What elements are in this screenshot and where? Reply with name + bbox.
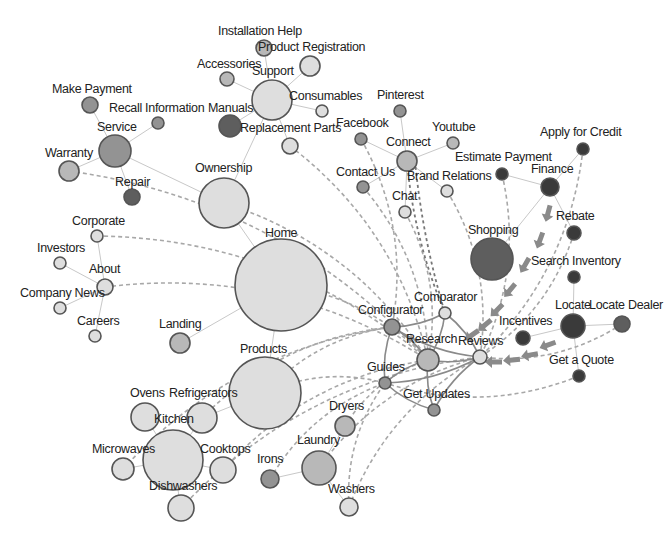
node-research[interactable] [417, 349, 439, 371]
node-irons[interactable] [261, 470, 279, 488]
label-apply-for-credit: Apply for Credit [540, 125, 622, 139]
node-corporate[interactable] [91, 230, 103, 242]
label-brand-relations: Brand Relations [407, 169, 491, 183]
node-locate-dealer[interactable] [614, 316, 630, 332]
label-configurator: Configurator [358, 303, 423, 317]
label-laundry: Laundry [297, 433, 341, 447]
node-finance[interactable] [541, 178, 559, 196]
node-recall-information[interactable] [152, 117, 164, 129]
label-get-a-quote: Get a Quote [549, 353, 614, 367]
label-kitchen: Kitchen [154, 412, 194, 426]
node-configurator[interactable] [384, 319, 400, 335]
node-manuals[interactable] [219, 115, 241, 137]
label-dishwashers: Dishwashers [149, 479, 217, 493]
label-make-payment: Make Payment [52, 82, 133, 96]
label-shopping: Shopping [468, 223, 519, 237]
label-careers: Careers [77, 314, 119, 328]
label-consumables: Consumables [289, 89, 362, 103]
node-get-a-quote[interactable] [573, 370, 585, 382]
arrow-icon [503, 353, 521, 366]
node-pinterest[interactable] [394, 105, 406, 117]
node-get-updates[interactable] [428, 404, 440, 416]
node-youtube[interactable] [447, 137, 459, 149]
label-refrigerators: Refrigerators [169, 386, 237, 400]
label-finance: Finance [531, 162, 574, 176]
node-search-inventory[interactable] [568, 271, 580, 283]
label-home: Home [265, 226, 297, 240]
node-make-payment[interactable] [82, 97, 98, 113]
arrow-icon [500, 280, 520, 301]
node-shopping[interactable] [471, 238, 513, 280]
label-contact-us: Contact Us [336, 165, 395, 179]
label-warranty: Warranty [45, 146, 94, 160]
node-washers[interactable] [340, 498, 358, 516]
label-cooktops: Cooktops [200, 442, 250, 456]
label-youtube: Youtube [432, 120, 476, 134]
node-investors[interactable] [54, 257, 66, 269]
label-product-registration: Product Registration [258, 40, 366, 54]
label-about: About [89, 262, 121, 276]
label-locate: Locate [555, 298, 591, 312]
label-rebate: Rebate [556, 209, 595, 223]
label-facebook: Facebook [336, 116, 390, 130]
node-connect[interactable] [397, 151, 417, 171]
node-landing[interactable] [170, 333, 190, 353]
label-ovens: Ovens [130, 386, 165, 400]
label-guides: Guides [367, 360, 405, 374]
label-chat: Chat [392, 189, 418, 203]
node-replacement-parts[interactable] [282, 138, 298, 154]
node-accessories[interactable] [220, 72, 234, 86]
node-estimate-payment[interactable] [496, 168, 508, 180]
label-ownership: Ownership [195, 161, 252, 175]
node-products[interactable] [229, 357, 301, 429]
label-research: Research [406, 332, 457, 346]
node-apply-for-credit[interactable] [577, 143, 589, 155]
node-incentives[interactable] [516, 331, 530, 345]
node-chat[interactable] [399, 206, 411, 218]
arrow-icon [540, 204, 556, 224]
node-reviews[interactable] [473, 350, 487, 364]
node-repair[interactable] [124, 189, 140, 205]
node-careers[interactable] [89, 330, 101, 342]
node-consumables[interactable] [316, 105, 328, 117]
node-service[interactable] [99, 135, 131, 167]
label-products: Products [240, 342, 287, 356]
label-reviews: Reviews [458, 334, 503, 348]
node-rebate[interactable] [567, 226, 581, 240]
label-investors: Investors [37, 241, 85, 255]
label-comparator: Comparator [414, 290, 477, 304]
label-locate-dealer: Locate Dealer [589, 298, 663, 312]
node-laundry[interactable] [302, 451, 336, 485]
node-dishwashers[interactable] [168, 495, 194, 521]
label-replacement-parts: Replacement Parts [240, 121, 341, 135]
label-corporate: Corporate [72, 214, 125, 228]
label-recall-information: Recall Information [109, 101, 205, 115]
node-contact-us[interactable] [357, 181, 369, 193]
node-brand-relations[interactable] [441, 185, 453, 197]
label-incentives: Incentives [499, 314, 552, 328]
label-search-inventory: Search Inventory [531, 254, 622, 268]
node-facebook[interactable] [355, 133, 367, 145]
node-home[interactable] [235, 239, 327, 331]
node-locate[interactable] [561, 314, 585, 338]
label-support: Support [252, 64, 295, 78]
node-microwaves[interactable] [112, 458, 134, 480]
node-company-news[interactable] [54, 302, 66, 314]
label-installation-help: Installation Help [218, 24, 302, 38]
node-ownership[interactable] [199, 178, 249, 228]
label-landing: Landing [159, 317, 202, 331]
label-connect: Connect [386, 135, 431, 149]
node-warranty[interactable] [59, 161, 79, 181]
node-comparator[interactable] [439, 307, 451, 319]
label-company-news: Company News [20, 286, 105, 300]
label-manuals: Manuals [208, 101, 253, 115]
node-support[interactable] [252, 80, 292, 120]
label-service: Service [97, 120, 137, 134]
label-pinterest: Pinterest [377, 88, 424, 102]
node-guides[interactable] [379, 377, 391, 389]
label-irons: Irons [257, 452, 283, 466]
node-product-registration[interactable] [300, 56, 320, 76]
label-washers: Washers [328, 482, 375, 496]
label-microwaves: Microwaves [92, 442, 155, 456]
arrow-icon [537, 337, 557, 354]
